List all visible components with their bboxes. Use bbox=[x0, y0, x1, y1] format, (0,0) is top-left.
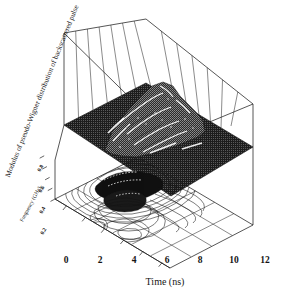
y-tick-0: 0.2 bbox=[39, 226, 48, 235]
x-tick-1: 2 bbox=[98, 255, 103, 265]
x-tick-0: 0 bbox=[64, 255, 69, 265]
y-tick-1: 0.4 bbox=[38, 205, 47, 214]
x-tick-2: 4 bbox=[132, 255, 137, 265]
x-tick-5: 10 bbox=[229, 255, 239, 265]
z-axis-title: Modulus of pseudo-Wigner distribution of… bbox=[3, 3, 81, 178]
figure-container: 0 2 4 6 8 10 12 Time (ns) 0.2 0.4 0.6 0.… bbox=[0, 0, 289, 296]
z-axis: Modulus of pseudo-Wigner distribution of… bbox=[3, 3, 81, 178]
x-tick-4: 8 bbox=[198, 255, 203, 265]
x-tick-6: 12 bbox=[260, 255, 270, 265]
x-tick-3: 6 bbox=[165, 255, 170, 265]
wigner-3d-plot: 0 2 4 6 8 10 12 Time (ns) 0.2 0.4 0.6 0.… bbox=[0, 0, 289, 296]
x-axis: 0 2 4 6 8 10 12 Time (ns) bbox=[63, 206, 270, 288]
y-axis: 0.2 0.4 0.6 0.8 Frequency (GHz) bbox=[18, 156, 55, 236]
x-axis-title: Time (ns) bbox=[146, 276, 185, 288]
y-axis-title: Frequency (GHz) bbox=[18, 185, 43, 223]
y-tick-3: 0.8 bbox=[36, 163, 45, 172]
